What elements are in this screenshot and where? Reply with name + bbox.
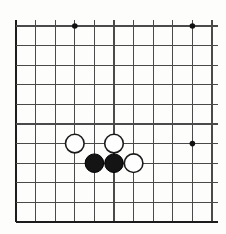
star-point-10-1 <box>190 23 196 29</box>
white-stone-c6-r7[interactable] <box>105 134 124 153</box>
black-stone-c6-r8[interactable] <box>105 154 124 173</box>
white-stone-c4-r7[interactable] <box>66 134 85 153</box>
star-point-4-1 <box>72 23 78 29</box>
white-stone-c7-r8[interactable] <box>124 154 143 173</box>
star-point-10-7 <box>190 141 196 147</box>
go-board-canvas[interactable] <box>0 0 226 234</box>
black-stone-c5-r8[interactable] <box>85 154 104 173</box>
go-board-figure <box>0 0 226 234</box>
